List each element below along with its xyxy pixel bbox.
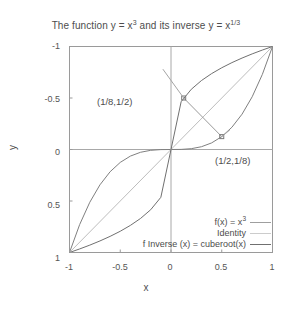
legend-label-cubic-exponent: 3 <box>242 215 246 222</box>
annotation-label: (1/2,1/8) <box>215 155 250 166</box>
annotation-label: (1/8,1/2) <box>97 96 132 107</box>
annotation-leader-line <box>222 130 230 137</box>
legend-item-cuberoot: f Inverse (x) = cuberoot(x) <box>60 239 246 249</box>
legend-label-cuberoot: f Inverse (x) = cuberoot(x) <box>143 239 246 249</box>
legend-item-cubic: f(x) = x3 <box>150 217 246 227</box>
annotation-markers <box>163 69 230 138</box>
legend-label-cubic: f(x) = x <box>215 217 243 227</box>
annotation-leader-line <box>163 69 184 98</box>
chart-figure: The function y = x3 and its inverse y = … <box>0 0 292 309</box>
legend-item-identity: Identity <box>150 228 246 238</box>
legend-label-identity: Identity <box>217 228 246 238</box>
